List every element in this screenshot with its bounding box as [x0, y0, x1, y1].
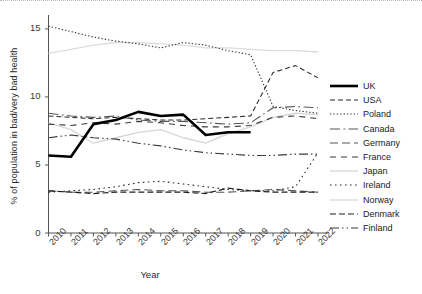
- y-tick-label: 15: [17, 22, 41, 33]
- legend-label: UK: [363, 81, 376, 91]
- legend-label: Japan: [363, 166, 388, 176]
- legend-swatch-france: [330, 152, 358, 162]
- series-line-usa: [49, 66, 319, 120]
- series-line-poland: [49, 26, 319, 113]
- legend-item-norway[interactable]: Norway: [330, 193, 400, 207]
- legend-swatch-germany: [330, 138, 358, 148]
- legend-item-uk[interactable]: UK: [330, 79, 400, 93]
- legend-swatch-finland: [330, 223, 358, 233]
- legend-item-canada[interactable]: Canada: [330, 122, 400, 136]
- legend-swatch-japan: [330, 166, 358, 176]
- legend-label: France: [363, 152, 391, 162]
- series-line-ireland: [49, 153, 319, 192]
- chart-legend: UKUSAPolandCanadaGermanyFranceJapanIrela…: [330, 79, 400, 235]
- legend-item-ireland[interactable]: Ireland: [330, 178, 400, 192]
- series-line-norway: [49, 42, 319, 53]
- legend-item-finland[interactable]: Finland: [330, 221, 400, 235]
- legend-item-poland[interactable]: Poland: [330, 107, 400, 121]
- legend-swatch-canada: [330, 124, 358, 134]
- legend-label: Norway: [363, 195, 394, 205]
- legend-label: Finland: [363, 223, 393, 233]
- legend-label: Germany: [363, 138, 400, 148]
- legend-swatch-norway: [330, 195, 358, 205]
- chart-figure: % of population in bad/very bad health Y…: [0, 0, 422, 294]
- legend-swatch-poland: [330, 109, 358, 119]
- y-tick-label: 0: [17, 227, 41, 238]
- legend-swatch-ireland: [330, 180, 358, 190]
- y-tick-label: 5: [17, 158, 41, 169]
- legend-item-denmark[interactable]: Denmark: [330, 207, 400, 221]
- legend-label: Denmark: [363, 209, 400, 219]
- legend-item-france[interactable]: France: [330, 150, 400, 164]
- legend-label: Canada: [363, 124, 395, 134]
- legend-swatch-usa: [330, 95, 358, 105]
- legend-item-japan[interactable]: Japan: [330, 164, 400, 178]
- y-tick-label: 10: [17, 90, 41, 101]
- legend-label: Poland: [363, 109, 391, 119]
- legend-swatch-uk: [330, 81, 358, 91]
- legend-label: Ireland: [363, 180, 391, 190]
- legend-label: USA: [363, 95, 382, 105]
- legend-item-usa[interactable]: USA: [330, 93, 400, 107]
- series-line-japan: [49, 113, 319, 143]
- legend-swatch-denmark: [330, 209, 358, 219]
- legend-item-germany[interactable]: Germany: [330, 136, 400, 150]
